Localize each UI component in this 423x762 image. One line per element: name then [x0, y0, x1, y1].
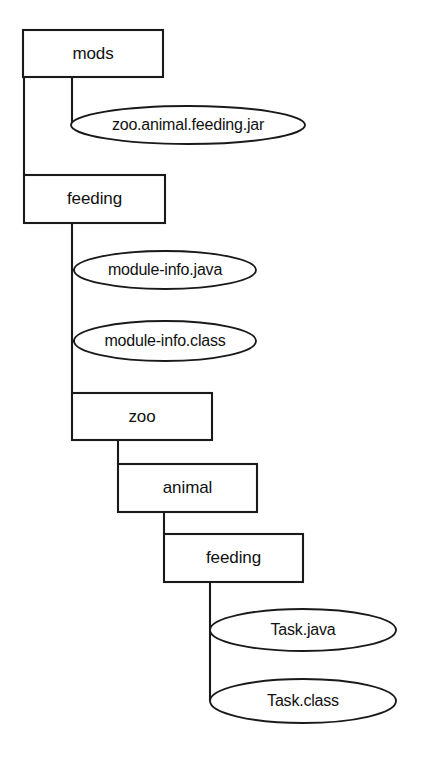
node-feeding-bottom[interactable]: feeding: [164, 534, 303, 582]
node-zoo[interactable]: zoo: [72, 393, 212, 440]
node-mods[interactable]: mods: [23, 30, 163, 77]
node-task-class[interactable]: Task.class: [210, 679, 396, 723]
connector-group: [24, 77, 210, 701]
node-task-java[interactable]: Task.java: [210, 609, 396, 651]
directory-tree-diagram: mods zoo.animal.feeding.jar feeding modu…: [0, 0, 423, 762]
file-label-task-class: Task.class: [267, 692, 339, 709]
folder-label-animal: animal: [163, 478, 212, 497]
file-label-module-info-class: module-info.class: [104, 332, 225, 349]
node-module-info-class[interactable]: module-info.class: [74, 321, 256, 361]
file-label-task-java: Task.java: [271, 621, 336, 638]
node-feeding-top[interactable]: feeding: [24, 175, 165, 223]
folder-label-feeding-top: feeding: [67, 189, 122, 208]
folder-label-mods: mods: [72, 44, 113, 63]
file-label-module-info-java: module-info.java: [108, 261, 223, 278]
folder-label-feeding-bottom: feeding: [206, 548, 261, 567]
diagram-canvas: mods zoo.animal.feeding.jar feeding modu…: [0, 0, 423, 762]
node-zoo-animal-feeding-jar[interactable]: zoo.animal.feeding.jar: [71, 106, 305, 144]
node-module-info-java[interactable]: module-info.java: [74, 251, 256, 289]
node-animal[interactable]: animal: [118, 464, 257, 512]
folder-label-zoo: zoo: [128, 407, 155, 426]
file-label-zoo-animal-feeding-jar: zoo.animal.feeding.jar: [112, 116, 265, 133]
